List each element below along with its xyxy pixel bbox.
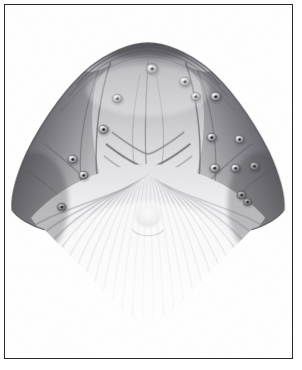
whale-head-illustration [5, 5, 292, 358]
whale-head-svg [5, 5, 292, 358]
paper-grain [5, 5, 292, 358]
illustration-frame [4, 4, 293, 359]
screenshot-root [0, 0, 302, 370]
illustration-plate [5, 5, 292, 358]
